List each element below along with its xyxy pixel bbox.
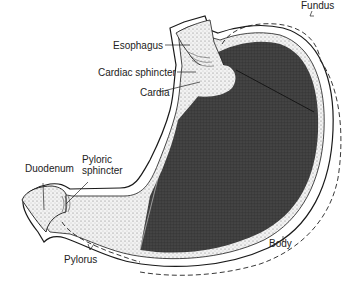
- label-pyloric-sphincter-1: Pyloric: [82, 154, 112, 165]
- label-fundus: Fundus: [301, 0, 334, 11]
- label-body: Body: [269, 238, 292, 249]
- label-cardia: Cardia: [140, 87, 169, 98]
- label-pyloric-sphincter-2: sphincter: [82, 165, 123, 176]
- label-esophagus: Esophagus: [113, 40, 163, 51]
- label-duodenum: Duodenum: [25, 163, 74, 174]
- label-pylorus: Pylorus: [64, 254, 97, 265]
- label-cardiac-sphincter: Cardiac sphincter: [98, 67, 176, 78]
- stomach-diagram: [0, 0, 351, 287]
